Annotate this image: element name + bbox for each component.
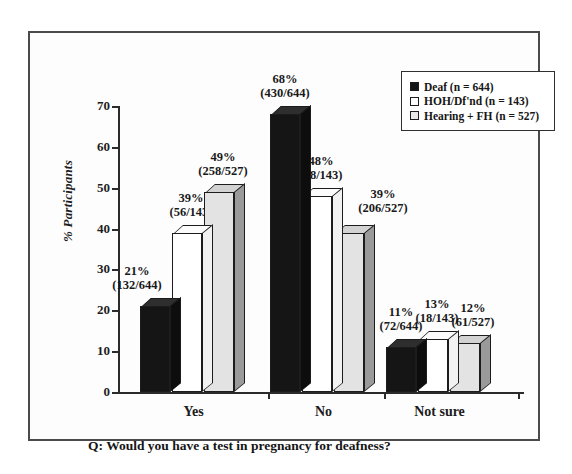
legend: Deaf (n = 644) HOH/Df'nd (n = 143) Heari… (401, 71, 555, 131)
bar-side-face (300, 105, 311, 392)
bar-group-no (270, 106, 377, 392)
y-tick-10 (112, 351, 118, 353)
value-label-deaf-no: 68%(430/644) (248, 72, 322, 100)
y-tick-60 (112, 147, 118, 149)
legend-item-hearing: Hearing + FH (n = 527) (410, 110, 547, 122)
value-label-hearing-fh-no: 39%(206/527) (346, 187, 420, 215)
x-tick-1 (384, 392, 386, 399)
legend-label-hearing: Hearing + FH (n = 527) (424, 110, 539, 122)
y-tick-label-50: 50 (97, 179, 110, 195)
y-tick-label-20: 20 (97, 302, 110, 318)
legend-swatch-hoh-icon (410, 97, 419, 106)
figure-bar-chart: % Participants 010203040506070 21%(132/6… (0, 0, 572, 474)
bar-side-face (480, 334, 491, 392)
x-category-yes: Yes (183, 404, 203, 420)
plot-area: 010203040506070 21%(132/644)39%(56/143)4… (118, 106, 524, 394)
legend-item-deaf: Deaf (n = 644) (410, 81, 547, 93)
y-tick-label-0: 0 (104, 384, 111, 400)
figure-frame: % Participants 010203040506070 21%(132/6… (28, 31, 540, 441)
y-axis-line (118, 106, 120, 394)
bar-deaf-no[interactable] (270, 114, 300, 392)
legend-swatch-deaf-icon (410, 82, 419, 91)
figure-caption: Q: Would you have a test in pregnancy fo… (88, 438, 391, 454)
y-tick-label-40: 40 (97, 220, 110, 236)
y-tick-50 (112, 188, 118, 190)
legend-swatch-hearing-icon (410, 111, 419, 120)
x-category-not-sure: Not sure (414, 404, 465, 420)
bar-side-face (202, 224, 213, 392)
legend-item-hoh: HOH/Df'nd (n = 143) (410, 95, 547, 107)
bar-side-face (364, 224, 375, 392)
bar-side-face (416, 338, 427, 392)
y-axis-title: % Participants (60, 160, 76, 242)
y-tick-label-70: 70 (97, 98, 110, 114)
bar-front-face (140, 306, 170, 392)
value-label-hearing-fh-yes: 49%(258/527) (186, 150, 260, 178)
bar-deaf-yes[interactable] (140, 306, 170, 392)
y-tick-label-60: 60 (97, 139, 110, 155)
y-tick-40 (112, 229, 118, 231)
bar-side-face (448, 330, 459, 392)
x-category-no: No (315, 404, 332, 420)
y-tick-20 (112, 310, 118, 312)
bar-side-face (234, 183, 245, 392)
y-tick-0 (112, 392, 118, 394)
y-tick-70 (112, 106, 118, 108)
value-label-deaf-yes: 21%(132/644) (100, 264, 174, 292)
legend-label-deaf: Deaf (n = 644) (424, 81, 493, 93)
bar-front-face (386, 347, 416, 392)
bar-side-face (332, 187, 343, 392)
bar-group-not-sure (386, 106, 493, 392)
x-tick-2 (518, 392, 520, 399)
bar-deaf-not-sure[interactable] (386, 347, 416, 392)
bar-front-face (270, 114, 300, 392)
y-tick-label-10: 10 (97, 343, 110, 359)
x-axis-line (118, 392, 524, 394)
bar-side-face (170, 297, 181, 392)
value-label-hearing-fh-not-sure: 12%(61/527) (436, 301, 510, 329)
legend-label-hoh: HOH/Df'nd (n = 143) (424, 95, 529, 107)
x-tick-0 (268, 392, 270, 399)
